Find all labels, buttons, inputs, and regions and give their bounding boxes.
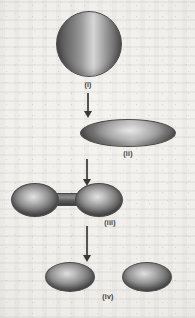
arrow-head-down-icon xyxy=(84,111,92,118)
stage-iv-right-fragment xyxy=(122,262,172,292)
stage-i-caption: (i) xyxy=(84,81,91,88)
arrow-shaft xyxy=(87,93,89,112)
stage-iii-dumbbell-shape xyxy=(11,183,123,217)
dumbbell-right-lobe xyxy=(75,183,123,217)
stage-iv-left-fragment xyxy=(45,262,95,292)
stage-iv-caption: (iv) xyxy=(102,293,113,300)
dumbbell-left-lobe xyxy=(11,183,59,217)
arrow-shaft xyxy=(86,226,88,256)
arrow-stage-iii-to-iv xyxy=(81,226,93,262)
stage-ii-ellipse-shape xyxy=(80,119,176,147)
arrow-shaft xyxy=(86,159,88,180)
arrow-stage-ii-to-iii xyxy=(81,159,93,186)
stage-ii-caption: (ii) xyxy=(123,150,132,157)
stage-iii-caption: (iii) xyxy=(104,219,116,226)
arrow-head-down-icon xyxy=(83,255,91,262)
fission-stages-figure: (i) (ii) (iii) (iv) xyxy=(0,0,195,318)
arrow-stage-i-to-ii xyxy=(82,93,94,118)
stage-i-sphere-shape xyxy=(56,11,122,77)
